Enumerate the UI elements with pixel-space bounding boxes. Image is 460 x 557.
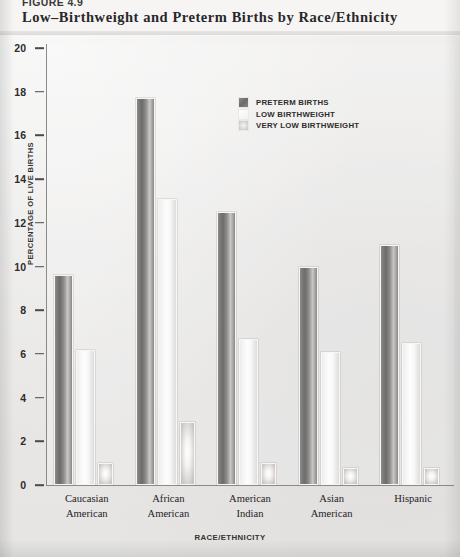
figure-number: FIGURE 4.9 <box>22 0 83 8</box>
y-tick-label: 8 <box>4 304 26 316</box>
legend-label: LOW BIRTHWEIGHT <box>256 110 335 119</box>
y-tick-label: 10 <box>4 261 26 273</box>
x-category-line: American <box>128 507 210 522</box>
white-swatch <box>238 109 249 120</box>
x-category-line: American <box>46 507 128 522</box>
legend-label: PRETERM BIRTHS <box>256 98 329 107</box>
y-tick-mark <box>35 178 44 180</box>
x-axis-title: RACE/ETHNICITY <box>0 533 460 542</box>
y-tick-label: 4 <box>4 392 26 404</box>
y-tick-mark <box>35 484 44 486</box>
y-tick-mark <box>35 441 44 443</box>
y-tick-label: 20 <box>4 42 26 54</box>
x-category-label-1: AfricanAmerican <box>128 492 210 521</box>
x-category-line: African <box>128 492 210 507</box>
x-axis-category-labels: CaucasianAmericanAfricanAmericanAmerican… <box>46 492 454 532</box>
bar-preterm-4 <box>380 245 399 485</box>
legend-label: VERY LOW BIRTHWEIGHT <box>256 121 359 130</box>
y-tick-mark <box>35 309 44 311</box>
y-tick-mark <box>35 47 44 49</box>
bar-lbw-1 <box>158 199 177 485</box>
header-divider <box>0 31 460 35</box>
legend-item-0: PRETERM BIRTHS <box>238 97 359 109</box>
x-category-label-0: CaucasianAmerican <box>46 492 128 521</box>
y-tick-label: 6 <box>4 348 26 360</box>
x-category-label-4: Hispanic <box>372 492 454 507</box>
y-tick-mark <box>35 91 44 93</box>
y-tick-mark <box>35 135 44 137</box>
bar-lbw-4 <box>402 343 421 485</box>
x-category-line: Caucasian <box>46 492 128 507</box>
x-category-label-3: AsianAmerican <box>291 492 373 521</box>
bar-lbw-2 <box>239 339 258 485</box>
chart-legend: PRETERM BIRTHSLOW BIRTHWEIGHTVERY LOW BI… <box>238 97 359 132</box>
x-category-line: American <box>291 507 373 522</box>
y-tick-mark <box>35 222 44 224</box>
bar-preterm-3 <box>299 267 318 486</box>
bar-vlbw-4 <box>424 468 439 485</box>
bar-lbw-3 <box>321 352 340 485</box>
y-tick-label: 0 <box>4 479 26 491</box>
y-tick-label: 18 <box>4 86 26 98</box>
y-tick-label: 12 <box>4 217 26 229</box>
dark-gradient-swatch <box>238 97 249 108</box>
figure-title: Low–Birthweight and Preterm Births by Ra… <box>22 9 398 26</box>
y-tick-mark <box>35 353 44 355</box>
y-tick-label: 2 <box>4 435 26 447</box>
bar-preterm-2 <box>217 212 236 485</box>
figure-page: FIGURE 4.9 Low–Birthweight and Preterm B… <box>0 0 460 557</box>
bar-vlbw-0 <box>98 463 113 485</box>
y-axis-title: PERCENTAGE OF LIVE BIRTHS <box>26 142 35 265</box>
bar-preterm-1 <box>136 98 155 485</box>
x-category-line: Hispanic <box>372 492 454 507</box>
bar-lbw-0 <box>76 350 95 485</box>
figure-header: FIGURE 4.9 Low–Birthweight and Preterm B… <box>0 0 460 36</box>
y-axis-tick-marks <box>35 0 47 557</box>
y-tick-label: 16 <box>4 129 26 141</box>
bar-preterm-0 <box>54 275 73 485</box>
y-axis-tick-labels: 02468101214161820 <box>2 0 26 557</box>
x-category-line: Indian <box>209 507 291 522</box>
y-tick-label: 14 <box>4 173 26 185</box>
y-tick-mark <box>35 397 44 399</box>
bar-vlbw-1 <box>180 422 195 485</box>
y-tick-mark <box>35 266 44 268</box>
bar-vlbw-2 <box>261 463 276 485</box>
x-axis-line <box>46 485 454 486</box>
legend-item-2: VERY LOW BIRTHWEIGHT <box>238 120 359 132</box>
x-category-line: Asian <box>291 492 373 507</box>
legend-item-1: LOW BIRTHWEIGHT <box>238 109 359 121</box>
x-category-line: American <box>209 492 291 507</box>
bar-vlbw-3 <box>343 468 358 485</box>
light-gray-swatch <box>238 120 249 131</box>
x-category-label-2: AmericanIndian <box>209 492 291 521</box>
